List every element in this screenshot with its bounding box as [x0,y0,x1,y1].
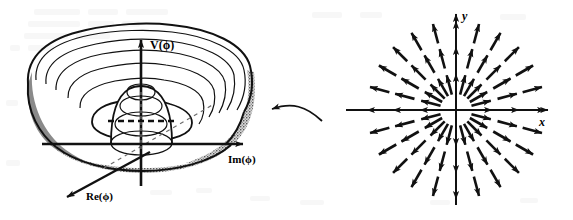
re-axis-label: Re(ϕ) [86,190,113,203]
y-axis-label: y [460,9,468,23]
figure-root: V(ϕ) Im(ϕ) Re(ϕ) x y [0,0,573,220]
x-axis-label: x [538,115,545,129]
im-axis-label: Im(ϕ) [228,153,256,166]
v-axis-label: V(ϕ) [150,38,174,52]
figure-svg: V(ϕ) Im(ϕ) Re(ϕ) x y [0,0,573,220]
